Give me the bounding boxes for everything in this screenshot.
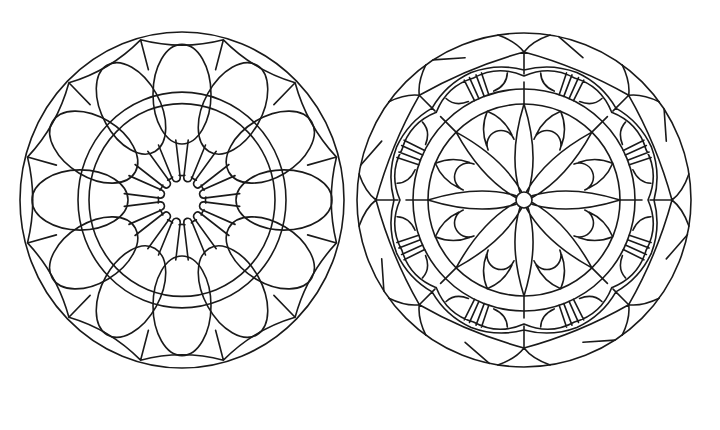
ring-inner (89, 104, 275, 297)
petal-ellipse (184, 233, 282, 349)
petal-ellipse (184, 50, 282, 166)
petal-ellipse (82, 233, 180, 349)
flower-petals (428, 104, 620, 296)
ring-spokes (406, 82, 642, 318)
petal-ellipse (214, 202, 326, 304)
ring-outer (78, 92, 286, 308)
scallop-band (28, 40, 337, 360)
left-rosette (20, 32, 344, 368)
center-scallops (158, 175, 206, 224)
center-dot (516, 192, 532, 208)
rosette-canvas (0, 0, 720, 430)
flower-lobes (435, 111, 612, 288)
right-rosette (357, 33, 691, 367)
center-rays (124, 140, 239, 260)
petal-ellipse (214, 96, 326, 198)
petal-ellipse (38, 202, 150, 304)
petal-ellipse (82, 50, 180, 166)
petal-ellipse (38, 96, 150, 198)
